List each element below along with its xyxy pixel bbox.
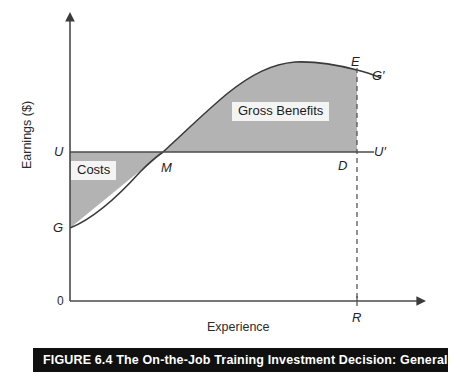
label-u: U [54, 144, 63, 159]
costs-label: Costs [71, 161, 116, 180]
label-r: R [352, 310, 361, 325]
y-axis-title: Earnings ($) [20, 90, 34, 180]
figure-caption: FIGURE 6.4 The On-the-Job Training Inves… [33, 348, 448, 372]
label-e: E [351, 54, 360, 69]
gross-benefits-label: Gross Benefits [232, 102, 329, 121]
x-axis-title: Experience [207, 320, 270, 334]
label-m: M [161, 160, 172, 175]
label-d: D [338, 158, 347, 173]
label-u-prime: U′ [374, 144, 386, 159]
label-g-prime: G′ [372, 68, 385, 83]
figure-container: Earnings ($) 0 U G M D U′ E G′ R Costs G… [0, 0, 460, 385]
origin-label: 0 [57, 294, 64, 308]
label-g: G [53, 220, 63, 235]
